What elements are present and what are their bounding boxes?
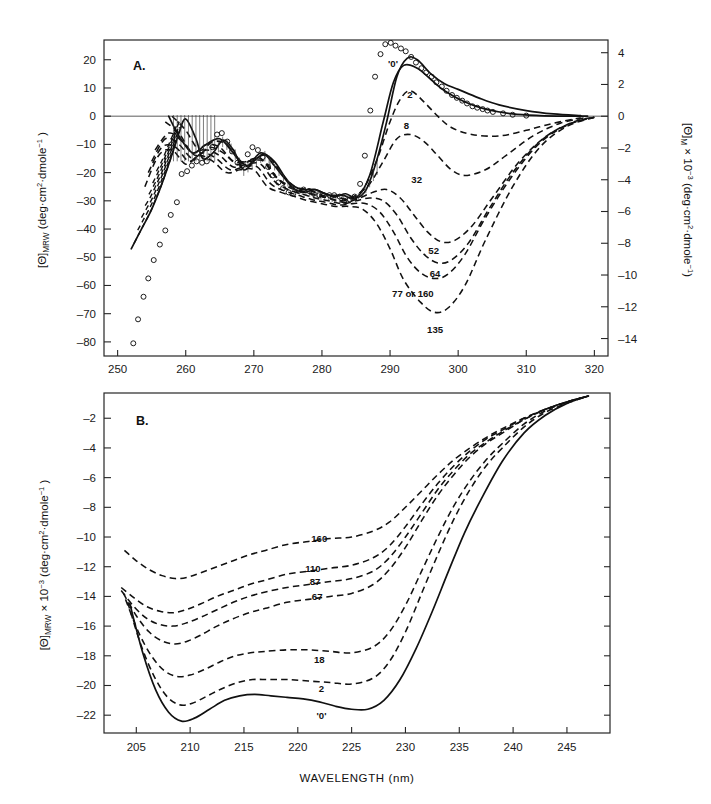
x-ticklabel-a: 310 [517,363,536,375]
y-ticklabel-left-a: 10 [83,82,96,94]
curve-label-a: 135 [427,324,444,335]
x-ticklabel-a: 300 [449,363,468,375]
curve-label-a: 8 [404,120,410,131]
y-ticklabel-right-a: –12 [618,301,637,313]
y-ticklabel-right-a: 0 [618,110,624,122]
y-ticklabel-right-a: –2 [618,142,631,154]
y-ticklabel-right-a: –8 [618,237,631,249]
x-ticklabel-b: 225 [342,741,361,753]
curve-label-b: 67 [312,591,323,602]
curve-label-a: '0' [388,58,398,69]
x-ticklabel-a: 250 [108,363,127,375]
x-ticklabel-b: 210 [181,741,200,753]
curve-label-b: 2 [319,683,324,694]
y-ticklabel-right-a: –10 [618,269,637,281]
y-ticklabel-left-a: 20 [83,54,96,66]
y-ticklabel-b: –10 [77,531,96,543]
panel-b-letter: B. [136,414,149,428]
y-ticklabel-right-a: 4 [618,47,625,59]
x-axis-title: WAVELENGTH (nm) [299,772,414,784]
x-ticklabel-a: 290 [380,363,399,375]
curve-label-b: 87 [310,576,321,587]
y-ticklabel-left-a: –20 [77,167,96,179]
curve-label-b: 160 [311,533,327,544]
y-ticklabel-b: –20 [77,679,96,691]
curve-label-a: 52 [428,245,439,256]
y-ticklabel-b: –22 [77,709,96,721]
x-ticklabel-a: 270 [244,363,263,375]
y-ticklabel-b: –2 [83,412,96,424]
y-ticklabel-left-a: –40 [77,223,96,235]
x-ticklabel-b: 235 [450,741,469,753]
curve-label-a: 77 or 160 [392,288,434,299]
y-ticklabel-b: –18 [77,650,96,662]
y-ticklabel-left-a: –60 [77,279,96,291]
x-ticklabel-b: 215 [234,741,253,753]
curve-label-a: 2 [407,89,412,100]
y-ticklabel-right-a: 2 [618,78,624,90]
y-ticklabel-left-a: 0 [90,110,96,122]
cd-spectra-figure: A. 25026027028029030031032020100–10–20–3… [0,0,711,804]
x-ticklabel-b: 245 [557,741,576,753]
x-ticklabel-b: 220 [288,741,307,753]
y-ticklabel-left-a: –10 [77,138,96,150]
figure-background [0,0,711,804]
y-ticklabel-left-a: –70 [77,308,96,320]
y-ticklabel-left-a: –50 [77,251,96,263]
curve-label-b: 110 [305,563,320,574]
panel-a-letter: A. [133,59,146,73]
y-ticklabel-b: –12 [77,561,96,573]
x-ticklabel-b: 205 [127,741,146,753]
y-ticklabel-b: –8 [83,501,96,513]
x-ticklabel-b: 230 [396,741,415,753]
y-ticklabel-right-a: –6 [618,205,631,217]
y-ticklabel-b: –16 [77,620,96,632]
y-ticklabel-left-a: –30 [77,195,96,207]
x-ticklabel-a: 260 [176,363,195,375]
y-ticklabel-b: –4 [83,442,96,454]
curve-label-b: 18 [314,654,325,665]
x-ticklabel-b: 240 [504,741,523,753]
curve-label-a: 32 [411,174,422,185]
curve-label-a: 64 [430,268,441,279]
x-ticklabel-a: 320 [585,363,604,375]
y-ticklabel-left-a: –80 [77,336,96,348]
y-ticklabel-b: –14 [77,590,97,602]
x-ticklabel-a: 280 [312,363,331,375]
y-ticklabel-right-a: –4 [618,174,631,186]
y-ticklabel-right-a: –14 [618,333,638,345]
y-ticklabel-b: –6 [83,472,96,484]
curve-label-b: '0' [317,710,327,721]
